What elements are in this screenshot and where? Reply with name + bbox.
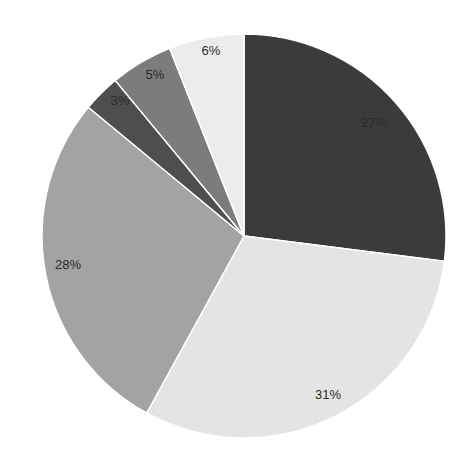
slice-label-0: 27% — [361, 115, 387, 130]
slice-label-4: 5% — [146, 67, 165, 82]
slice-label-1: 31% — [315, 387, 341, 402]
pie-slice-0 — [244, 34, 446, 261]
slice-label-3: 3% — [111, 93, 130, 108]
slice-label-5: 6% — [202, 43, 221, 58]
pie-chart: 27% 31% 28% 3% 5% 6% — [0, 0, 469, 465]
slice-label-2: 28% — [55, 257, 81, 272]
pie-slices — [42, 34, 446, 438]
